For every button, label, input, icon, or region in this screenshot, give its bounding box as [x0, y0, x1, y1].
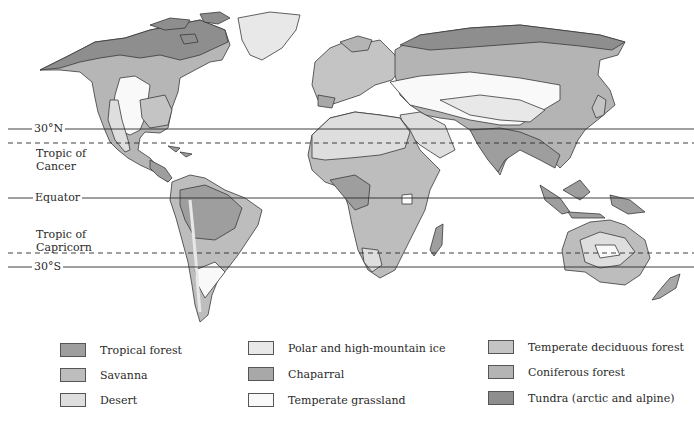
tundra-swatch [488, 391, 514, 405]
australia [562, 220, 650, 285]
tropic-of-capricorn-label: Tropic of Capricorn [34, 228, 94, 254]
asia [390, 25, 625, 175]
polar-ice-swatch [248, 341, 274, 355]
legend-item-polar-ice: Polar and high-mountain ice [248, 340, 446, 356]
greenland [238, 12, 300, 60]
legend-item-chaparral: Chaparral [248, 366, 344, 382]
world-biome-map [0, 0, 694, 330]
equator-label: Equator [33, 191, 82, 204]
chaparral-swatch [248, 367, 274, 381]
europe [312, 36, 400, 108]
temperate-deciduous-forest-swatch [488, 340, 514, 354]
tropical-forest-swatch [60, 343, 86, 357]
latitude-30n-label: 30°N [32, 122, 65, 135]
south-america [170, 175, 262, 322]
legend-item-tundra: Tundra (arctic and alpine) [488, 390, 674, 406]
temperate-grassland-swatch [248, 393, 274, 407]
legend-item-temperate-deciduous-forest: Temperate deciduous forest [488, 339, 684, 355]
southeast-asia-islands [540, 180, 645, 218]
biome-legend: Tropical forest Savanna Desert Polar and… [0, 330, 694, 421]
latitude-30s-label: 30°S [32, 260, 63, 273]
legend-item-desert: Desert [60, 392, 137, 408]
tropic-of-cancer-label: Tropic of Cancer [34, 147, 88, 173]
caribbean [168, 146, 192, 157]
new-zealand [652, 274, 680, 300]
legend-item-coniferous-forest: Coniferous forest [488, 364, 625, 380]
savanna-swatch [60, 368, 86, 382]
desert-swatch [60, 393, 86, 407]
madagascar [430, 224, 443, 256]
legend-item-savanna: Savanna [60, 367, 148, 383]
coniferous-forest-swatch [488, 365, 514, 379]
legend-item-temperate-grassland: Temperate grassland [248, 392, 406, 408]
legend-item-tropical-forest: Tropical forest [60, 342, 182, 358]
